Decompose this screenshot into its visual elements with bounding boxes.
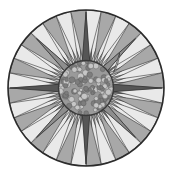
hub-pebble: [105, 89, 111, 95]
hub-pebble: [77, 91, 81, 95]
hub-pebble: [63, 83, 67, 87]
hub-pebble: [93, 108, 97, 112]
hub-pebble: [79, 77, 83, 81]
hub-pebble: [94, 103, 99, 108]
hub-pebble: [65, 91, 69, 95]
hub-pebble: [78, 67, 82, 71]
hub-pebble: [94, 97, 98, 101]
hub-pebble: [104, 79, 108, 83]
hub-pebble: [75, 105, 80, 110]
hub-pebble: [69, 77, 75, 83]
hub-pebble: [96, 78, 102, 84]
hub-pebble: [88, 78, 93, 83]
hub-pebble: [83, 76, 87, 80]
hub-pebble: [65, 78, 69, 82]
hub-pebble: [72, 67, 77, 72]
hub-pebble: [88, 63, 94, 69]
hub-pebble: [91, 92, 94, 95]
rosette-figure: Circular rosette with radiating triangul…: [0, 0, 172, 177]
hub-pebble: [100, 86, 103, 89]
hub-pebble: [81, 101, 86, 106]
hub-pebble: [81, 61, 85, 65]
hub-pebble: [73, 89, 77, 93]
hub-pebble: [69, 96, 75, 102]
hub-pebble: [78, 110, 82, 114]
rosette-illustration: Circular rosette with radiating triangul…: [0, 0, 172, 177]
hub-pebble: [87, 72, 93, 78]
hub-pebble: [81, 93, 87, 99]
hub-pebble: [84, 86, 89, 91]
hub-pebble: [88, 88, 91, 91]
